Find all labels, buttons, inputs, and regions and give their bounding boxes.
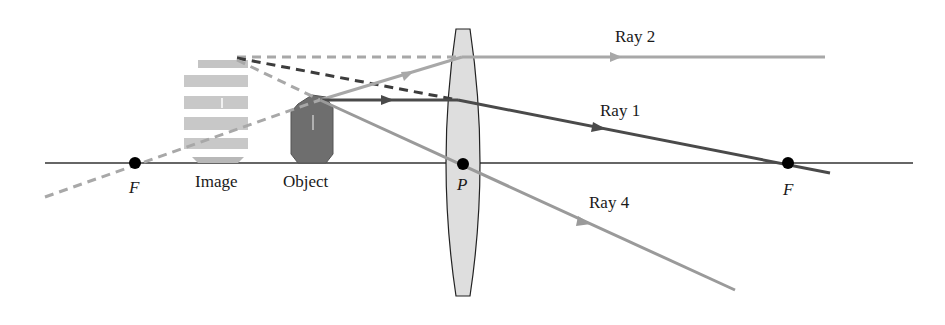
principal-point	[457, 158, 469, 170]
ray1-refracted	[458, 100, 830, 173]
ray4-dashed-extension	[237, 60, 320, 100]
virtual-image	[184, 60, 248, 163]
object-label: Object	[283, 172, 328, 192]
ray-diagram: Ray 2 Ray 1 Ray 4 F P F Image Object	[0, 0, 945, 325]
ray4	[320, 100, 735, 290]
ray1-arrow-icon	[381, 95, 394, 105]
ray1-dashed-extension	[237, 58, 458, 100]
ray2-label: Ray 2	[615, 27, 655, 47]
focal-point-left	[129, 157, 141, 169]
focal-right-label: F	[783, 180, 793, 200]
ray1-label: Ray 1	[600, 101, 640, 121]
ray2-dashed-from-focus	[45, 100, 320, 197]
focal-left-label: F	[129, 178, 139, 198]
ray1-refracted-arrow-icon	[591, 122, 606, 132]
object-crystal	[291, 95, 333, 163]
ray4-label: Ray 4	[589, 193, 629, 213]
image-label: Image	[195, 172, 237, 192]
diagram-canvas	[0, 0, 945, 325]
ray2-incident-arrow-icon	[401, 71, 414, 81]
principal-point-label: P	[457, 175, 467, 195]
focal-point-right	[782, 157, 794, 169]
ray2-arrow-icon	[610, 52, 622, 62]
